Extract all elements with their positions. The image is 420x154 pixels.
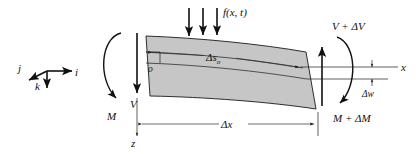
i-vector-label: i bbox=[75, 66, 78, 78]
x-axis-label: x bbox=[400, 61, 406, 73]
beam-element-free-body-diagram: i j k M V f(x, t) o Δs bbox=[0, 0, 420, 154]
right-shear-label: V + ΔV bbox=[332, 20, 366, 32]
left-moment-label: M bbox=[106, 110, 117, 122]
right-moment-label: M + ΔM bbox=[332, 112, 372, 124]
origin-label: o bbox=[148, 64, 153, 74]
deflection-label: Δw bbox=[361, 89, 375, 99]
distributed-load-label: f(x, t) bbox=[223, 6, 247, 19]
horizontal-dimension-label: Δx bbox=[220, 118, 232, 130]
z-axis-label: z bbox=[130, 137, 136, 149]
